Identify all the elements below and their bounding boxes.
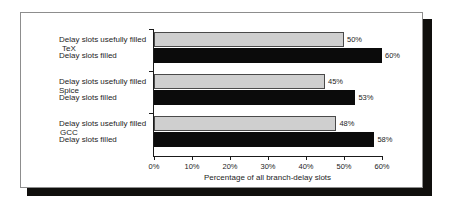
x-axis-tick [230, 156, 231, 160]
y-axis-tick [149, 29, 154, 30]
y-axis-tick [149, 113, 154, 114]
x-axis-tick [154, 156, 155, 160]
bar-value-label: 60% [385, 51, 400, 60]
chart-panel: 0%10%20%30%40%50%60%TeX50%Delay slots us… [20, 12, 423, 188]
x-axis-tick [344, 156, 345, 160]
series-label-filled: Delay slots filled [59, 135, 117, 144]
bar-value-label: 48% [339, 119, 354, 128]
bar-value-label: 53% [358, 93, 373, 102]
x-axis-tick-label: 30% [260, 162, 275, 171]
bar-spice-usefully-filled [154, 74, 325, 89]
series-label-usefully-filled: Delay slots usefully filled [59, 119, 146, 128]
bar-spice-filled [154, 90, 355, 105]
bar-tex-filled [154, 48, 382, 63]
series-label-filled: Delay slots filled [59, 51, 117, 60]
x-axis-tick-label: 60% [374, 162, 389, 171]
bar-gcc-filled [154, 132, 374, 147]
x-axis-tick-label: 20% [222, 162, 237, 171]
bar-tex-usefully-filled [154, 32, 344, 47]
x-axis-tick-label: 10% [184, 162, 199, 171]
x-axis-tick-label: 50% [336, 162, 351, 171]
bar-gcc-usefully-filled [154, 116, 336, 131]
plot-area: 0%10%20%30%40%50%60%TeX50%Delay slots us… [21, 13, 424, 189]
y-axis-tick [149, 71, 154, 72]
x-axis-tick [192, 156, 193, 160]
x-axis-tick [268, 156, 269, 160]
x-axis-tick [382, 156, 383, 160]
x-axis-title: Percentage of all branch-delay slots [153, 173, 382, 182]
figure-root: 0%10%20%30%40%50%60%TeX50%Delay slots us… [0, 0, 451, 205]
bar-value-label: 45% [328, 77, 343, 86]
bar-value-label: 58% [377, 135, 392, 144]
x-axis-tick-label: 0% [149, 162, 160, 171]
series-label-filled: Delay slots filled [59, 93, 117, 102]
series-label-usefully-filled: Delay slots usefully filled [59, 77, 146, 86]
series-label-usefully-filled: Delay slots usefully filled [59, 35, 146, 44]
x-axis-tick-label: 40% [298, 162, 313, 171]
bar-value-label: 50% [347, 35, 362, 44]
x-axis-tick [306, 156, 307, 160]
